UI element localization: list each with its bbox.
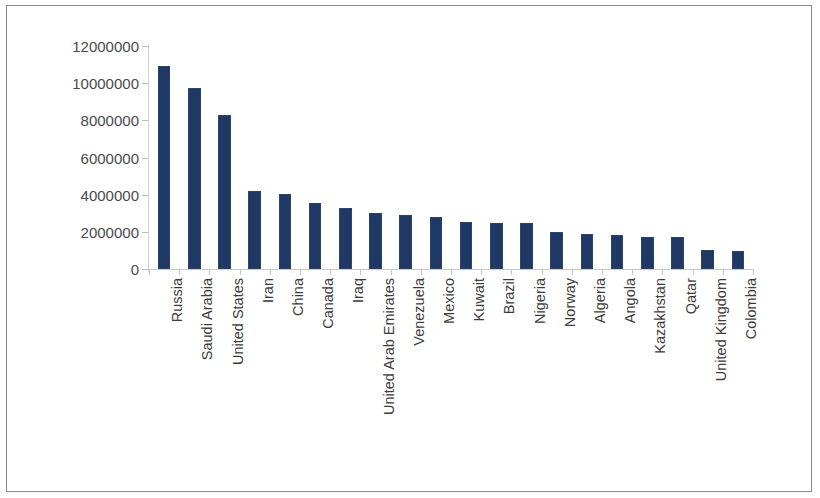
x-axis-category-label: China (291, 278, 306, 316)
x-axis-category-label: Canada (321, 278, 336, 329)
x-axis-category-label: Kuwait (472, 278, 487, 322)
x-axis-category-label: Iran (261, 278, 276, 303)
y-axis-tick-label: 8000000 (19, 113, 139, 128)
x-axis-category-label: Kazakhstan (653, 278, 668, 354)
y-axis-tick-label: 2000000 (19, 224, 139, 239)
x-axis-category-label: United Arab Emirates (382, 278, 397, 415)
x-axis-category-label: Venezuela (412, 278, 427, 346)
y-axis-tick-mark (142, 232, 148, 233)
y-axis-tick-mark (142, 83, 148, 84)
x-axis-category-labels: RussiaSaudi ArabiaUnited StatesIranChina… (149, 6, 753, 493)
y-axis-tick-labels: 0200000040000006000000800000010000000120… (13, 6, 139, 493)
x-axis-category-label: Colombia (744, 278, 759, 339)
x-axis-category-label: Norway (563, 278, 578, 327)
y-axis-tick-mark (142, 46, 148, 47)
y-axis-tick-mark (142, 120, 148, 121)
x-axis-category-label: Qatar (684, 278, 699, 314)
x-axis-category-label: Angola (623, 278, 638, 323)
x-axis-category-label: Russia (170, 278, 185, 322)
x-axis-category-label: Iraq (351, 278, 366, 303)
chart-frame: 0200000040000006000000800000010000000120… (6, 5, 812, 492)
x-axis-category-label: Saudi Arabia (200, 278, 215, 360)
x-axis-category-label: United Kingdom (714, 278, 729, 381)
x-axis-category-label: Brazil (502, 278, 517, 314)
y-axis-tick-mark (142, 158, 148, 159)
y-axis-tick-label: 0 (19, 262, 139, 277)
x-axis-tick-mark (753, 270, 754, 275)
y-axis-tick-label: 6000000 (19, 150, 139, 165)
y-axis-tick-mark (142, 195, 148, 196)
y-axis-tick-label: 4000000 (19, 187, 139, 202)
x-axis-category-label: Nigeria (533, 278, 548, 324)
x-axis-category-label: Mexico (442, 278, 457, 324)
x-axis-category-label: United States (231, 278, 246, 365)
y-axis-tick-label: 12000000 (19, 39, 139, 54)
y-axis-tick-label: 10000000 (19, 76, 139, 91)
x-axis-category-label: Algeria (593, 278, 608, 323)
